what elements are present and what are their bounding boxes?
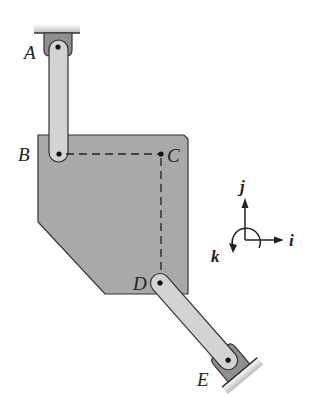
label-e: E (196, 369, 209, 390)
coordinate-axes (229, 198, 284, 253)
mechanism-diagram: A B C D E j i k (0, 0, 315, 411)
label-j: j (237, 177, 245, 196)
label-a: A (22, 42, 36, 63)
link-ab (49, 40, 68, 162)
label-b: B (18, 144, 30, 165)
label-i: i (289, 231, 294, 250)
i-arrow-icon (274, 237, 284, 244)
label-c: C (167, 145, 180, 166)
link-de (147, 270, 242, 374)
label-k: k (211, 247, 220, 266)
k-arrow-icon (229, 243, 237, 253)
j-arrow-icon (242, 198, 249, 208)
label-d: D (132, 273, 147, 294)
point-c (158, 151, 163, 156)
